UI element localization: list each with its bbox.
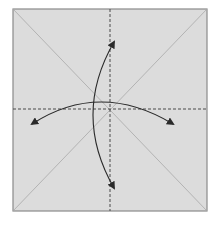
origami-diagram [0,0,216,225]
